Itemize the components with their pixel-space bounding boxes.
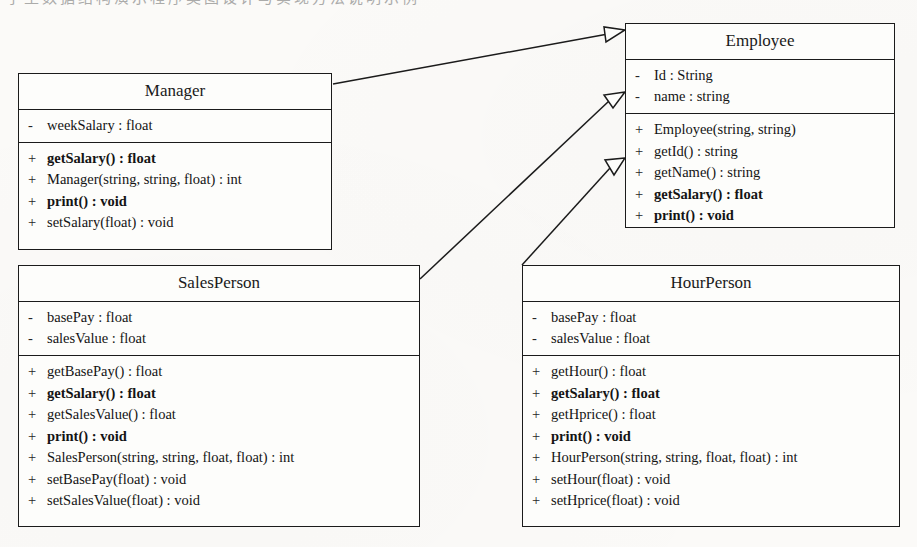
member-signature: getSalesValue() : float [47, 404, 176, 425]
method-row: + SalesPerson(string, string, float, flo… [19, 447, 419, 468]
class-box-hourperson[interactable]: HourPerson - basePay : float - salesValu… [522, 265, 900, 527]
member-signature: print() : void [654, 205, 734, 226]
visibility-marker: - [635, 86, 654, 107]
member-signature: basePay : float [47, 307, 132, 328]
member-signature: getSalary() : float [47, 148, 156, 169]
method-row: + getName() : string [626, 162, 894, 183]
visibility-marker: + [532, 404, 551, 425]
member-signature: salesValue : float [551, 328, 650, 349]
member-signature: getHour() : float [551, 361, 646, 382]
class-box-manager[interactable]: Manager - weekSalary : float + getSalary… [18, 73, 332, 250]
visibility-marker: + [28, 361, 47, 382]
member-signature: setSalesValue(float) : void [47, 490, 200, 511]
method-row: + setBasePay(float) : void [19, 469, 419, 490]
visibility-marker: - [28, 115, 47, 136]
method-row: + getSalary() : float [626, 184, 894, 205]
member-signature: HourPerson(string, string, float, float)… [551, 447, 797, 468]
methods-salesperson: + getBasePay() : float + getSalary() : f… [19, 356, 419, 517]
method-row: + getBasePay() : float [19, 361, 419, 382]
visibility-marker: + [28, 169, 47, 190]
member-signature: setSalary(float) : void [47, 212, 173, 233]
visibility-marker: + [532, 361, 551, 382]
attributes-employee: - Id : String - name : string [626, 60, 894, 115]
methods-hourperson: + getHour() : float + getSalary() : floa… [523, 356, 899, 517]
attribute-row: - salesValue : float [19, 328, 419, 349]
member-signature: weekSalary : float [47, 115, 153, 136]
method-row: + getHprice() : float [523, 404, 899, 425]
member-signature: print() : void [47, 426, 127, 447]
attribute-row: - Id : String [626, 65, 894, 86]
visibility-marker: + [28, 212, 47, 233]
member-signature: salesValue : float [47, 328, 146, 349]
visibility-marker: + [532, 426, 551, 447]
member-signature: getSalary() : float [551, 383, 660, 404]
class-name-employee: Employee [626, 24, 894, 60]
visibility-marker: + [532, 490, 551, 511]
generalization-hourperson-to-employee [522, 158, 625, 265]
methods-manager: + getSalary() : float + Manager(string, … [19, 143, 331, 240]
visibility-marker: + [28, 148, 47, 169]
method-row: + getSalesValue() : float [19, 404, 419, 425]
methods-employee: + Employee(string, string) + getId() : s… [626, 114, 894, 232]
member-signature: Employee(string, string) [654, 119, 796, 140]
method-row: + getHour() : float [523, 361, 899, 382]
method-row: + setHour(float) : void [523, 469, 899, 490]
member-signature: getSalary() : float [47, 383, 156, 404]
method-row: + print() : void [523, 426, 899, 447]
visibility-marker: + [532, 447, 551, 468]
visibility-marker: + [28, 447, 47, 468]
member-signature: getName() : string [654, 162, 760, 183]
visibility-marker: + [635, 162, 654, 183]
member-signature: getSalary() : float [654, 184, 763, 205]
attributes-salesperson: - basePay : float - salesValue : float [19, 302, 419, 357]
class-box-employee[interactable]: Employee - Id : String - name : string +… [625, 23, 895, 228]
attribute-row: - salesValue : float [523, 328, 899, 349]
visibility-marker: + [28, 426, 47, 447]
attribute-row: - basePay : float [523, 307, 899, 328]
visibility-marker: - [532, 328, 551, 349]
member-signature: Manager(string, string, float) : int [47, 169, 242, 190]
member-signature: name : string [654, 86, 730, 107]
method-row: + getSalary() : float [19, 383, 419, 404]
visibility-marker: + [532, 469, 551, 490]
visibility-marker: + [28, 383, 47, 404]
class-name-salesperson: SalesPerson [19, 266, 419, 302]
visibility-marker: - [532, 307, 551, 328]
attribute-row: - basePay : float [19, 307, 419, 328]
attribute-row: - weekSalary : float [19, 115, 331, 136]
visibility-marker: + [28, 469, 47, 490]
class-box-salesperson[interactable]: SalesPerson - basePay : float - salesVal… [18, 265, 420, 527]
visibility-marker: - [635, 65, 654, 86]
member-signature: Id : String [654, 65, 713, 86]
method-row: + getId() : string [626, 141, 894, 162]
attributes-hourperson: - basePay : float - salesValue : float [523, 302, 899, 357]
member-signature: setHour(float) : void [551, 469, 670, 490]
method-row: + setHprice(float) : void [523, 490, 899, 511]
method-row: + print() : void [19, 191, 331, 212]
method-row: + getSalary() : float [523, 383, 899, 404]
method-row: + getSalary() : float [19, 148, 331, 169]
visibility-marker: + [635, 119, 654, 140]
visibility-marker: - [28, 328, 47, 349]
member-signature: setBasePay(float) : void [47, 469, 186, 490]
visibility-marker: + [635, 141, 654, 162]
member-signature: getId() : string [654, 141, 738, 162]
generalization-salesperson-to-employee [420, 92, 625, 279]
method-row: + setSalesValue(float) : void [19, 490, 419, 511]
uml-diagram-canvas: 学生数据结构演示程序类图设计与实现方法说明示例 Manager - weekSa… [0, 0, 917, 547]
method-row: + print() : void [626, 205, 894, 226]
member-signature: print() : void [551, 426, 631, 447]
visibility-marker: + [635, 184, 654, 205]
member-signature: print() : void [47, 191, 127, 212]
generalization-manager-to-employee [333, 27, 625, 84]
visibility-marker: + [28, 404, 47, 425]
member-signature: SalesPerson(string, string, float, float… [47, 447, 294, 468]
visibility-marker: + [28, 490, 47, 511]
method-row: + HourPerson(string, string, float, floa… [523, 447, 899, 468]
visibility-marker: + [28, 191, 47, 212]
attribute-row: - name : string [626, 86, 894, 107]
visibility-marker: + [532, 383, 551, 404]
member-signature: setHprice(float) : void [551, 490, 680, 511]
method-row: + print() : void [19, 426, 419, 447]
attributes-manager: - weekSalary : float [19, 110, 331, 143]
